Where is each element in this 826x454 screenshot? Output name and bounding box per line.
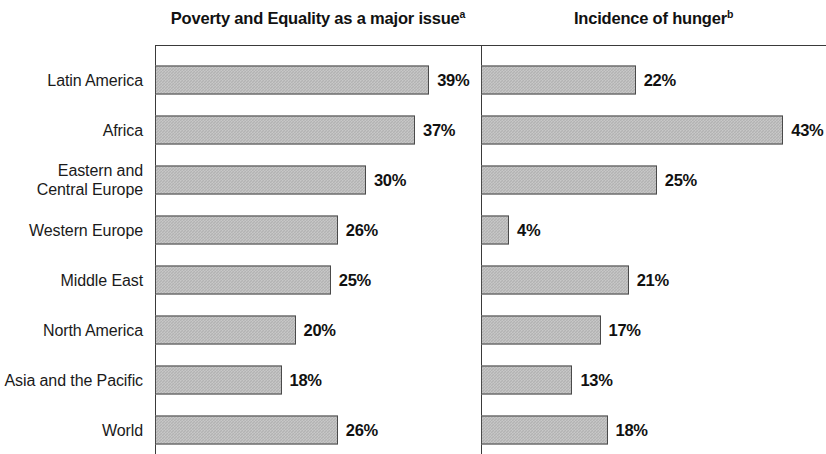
- category-label: Western Europe: [0, 221, 143, 240]
- bar-poverty: [155, 266, 331, 295]
- category-label: Middle East: [0, 271, 143, 290]
- bar-row: Western Europe26%4%: [0, 205, 826, 255]
- plot-area: Latin America39%22%Africa37%43%Eastern a…: [0, 45, 826, 454]
- bar-row: Africa37%43%: [0, 105, 826, 155]
- category-label-line1: Africa: [103, 122, 143, 139]
- category-label-line2: Central Europe: [0, 180, 143, 199]
- bar-poverty: [155, 116, 415, 145]
- bar-poverty: [155, 216, 338, 245]
- bar-hunger: [481, 166, 657, 195]
- bar-poverty: [155, 366, 282, 395]
- category-label-line1: Latin America: [47, 72, 143, 89]
- bar-hunger: [481, 116, 783, 145]
- bar-group-hunger: 13%: [481, 366, 613, 395]
- category-label: Africa: [0, 121, 143, 140]
- bar-group-hunger: 25%: [481, 166, 697, 195]
- category-label-line1: Asia and the Pacific: [4, 372, 143, 389]
- bar-row: World26%18%: [0, 405, 826, 454]
- category-label-line1: World: [102, 422, 143, 439]
- category-label-line1: North America: [43, 322, 143, 339]
- category-label: North America: [0, 321, 143, 340]
- bar-poverty: [155, 316, 296, 345]
- bar-hunger: [481, 216, 509, 245]
- bar-group-poverty: 25%: [155, 266, 371, 295]
- bar-hunger: [481, 366, 572, 395]
- bar-group-poverty: 37%: [155, 116, 455, 145]
- bar-poverty: [155, 416, 338, 445]
- bar-value-label-poverty: 26%: [346, 221, 378, 240]
- bar-value-label-poverty: 20%: [304, 321, 336, 340]
- bar-value-label-hunger: 17%: [609, 321, 641, 340]
- bar-row: North America20%17%: [0, 305, 826, 355]
- bar-chart-figure: Poverty and Equality as a major issuea I…: [0, 0, 826, 454]
- bar-group-hunger: 17%: [481, 316, 641, 345]
- category-label: Asia and the Pacific: [0, 371, 143, 390]
- bar-poverty: [155, 66, 429, 95]
- bar-hunger: [481, 266, 629, 295]
- bar-value-label-poverty: 25%: [339, 271, 371, 290]
- bar-group-hunger: 18%: [481, 416, 648, 445]
- category-label: Latin America: [0, 71, 143, 90]
- bar-value-label-hunger: 18%: [616, 421, 648, 440]
- bar-value-label-hunger: 43%: [791, 121, 823, 140]
- bar-group-poverty: 30%: [155, 166, 406, 195]
- bar-group-poverty: 39%: [155, 66, 469, 95]
- bar-value-label-poverty: 30%: [374, 171, 406, 190]
- bar-row: Eastern andCentral Europe30%25%: [0, 155, 826, 205]
- plot-top-rule: [155, 45, 826, 46]
- bar-poverty: [155, 166, 366, 195]
- panel-title-poverty-footnote: a: [460, 8, 466, 20]
- panel-title-poverty: Poverty and Equality as a major issuea: [155, 9, 481, 28]
- bar-value-label-hunger: 21%: [637, 271, 669, 290]
- bar-value-label-hunger: 13%: [580, 371, 612, 390]
- bar-value-label-poverty: 37%: [423, 121, 455, 140]
- bar-group-poverty: 26%: [155, 216, 378, 245]
- panel-title-hunger: Incidence of hungerb: [481, 9, 826, 28]
- bar-row: Latin America39%22%: [0, 55, 826, 105]
- bar-group-poverty: 26%: [155, 416, 378, 445]
- bar-value-label-hunger: 4%: [517, 221, 540, 240]
- bar-value-label-poverty: 26%: [346, 421, 378, 440]
- bar-group-hunger: 43%: [481, 116, 823, 145]
- category-label-line1: Middle East: [61, 272, 144, 289]
- bar-value-label-poverty: 18%: [290, 371, 322, 390]
- bar-hunger: [481, 66, 636, 95]
- category-label-line1: Western Europe: [29, 222, 143, 239]
- bar-group-hunger: 4%: [481, 216, 540, 245]
- category-label: World: [0, 421, 143, 440]
- bar-value-label-poverty: 39%: [437, 71, 469, 90]
- bar-group-hunger: 22%: [481, 66, 676, 95]
- bar-row: Asia and the Pacific18%13%: [0, 355, 826, 405]
- bar-group-hunger: 21%: [481, 266, 669, 295]
- bar-group-poverty: 20%: [155, 316, 336, 345]
- panel-title-poverty-text: Poverty and Equality as a major issue: [171, 9, 460, 27]
- category-label: Eastern andCentral Europe: [0, 161, 143, 199]
- category-label-line1: Eastern and: [58, 162, 143, 179]
- bar-row: Middle East25%21%: [0, 255, 826, 305]
- bar-hunger: [481, 416, 608, 445]
- bar-group-poverty: 18%: [155, 366, 322, 395]
- bar-value-label-hunger: 25%: [665, 171, 697, 190]
- bar-hunger: [481, 316, 601, 345]
- bar-value-label-hunger: 22%: [644, 71, 676, 90]
- panel-title-hunger-text: Incidence of hunger: [574, 9, 727, 27]
- panel-title-hunger-footnote: b: [727, 8, 733, 20]
